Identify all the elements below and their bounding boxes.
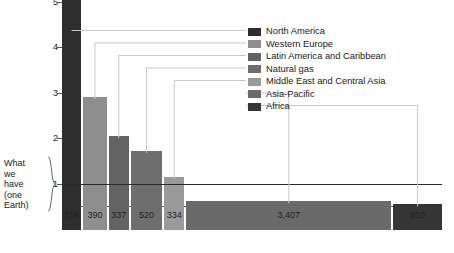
bar-north-america[interactable] [62,0,81,230]
annotation-line-2: we [4,169,50,180]
legend-swatch-icon [248,40,261,48]
y-tick-label-4: 4 [53,42,58,52]
legend-item-africa[interactable]: Africa [248,101,386,113]
legend-label: Natural gas [266,64,314,75]
reference-line-annotation: What we have (one Earth) [4,158,50,211]
y-tick-label-2: 2 [53,133,58,143]
x-label-337: 337 [111,210,126,220]
annotation-line-5: Earth) [4,200,50,211]
legend-item-asia-pacific[interactable]: Asia-Pacific [248,89,386,101]
x-label-520: 520 [139,210,154,220]
chart-legend: North AmericaWestern EuropeLatin America… [248,26,386,113]
legend-label: Middle East and Central Asia [266,76,385,87]
legend-item-north-america[interactable]: North America [248,26,386,38]
legend-swatch-icon [248,78,261,86]
y-tick-label-1: 1 [53,179,58,189]
legend-swatch-icon [248,53,261,61]
legend-label: North America [266,26,325,37]
legend-label: Latin America and Caribbean [266,51,386,62]
x-label-390: 390 [87,210,102,220]
legend-item-natural-gas[interactable]: Natural gas [248,64,386,76]
one-earth-reference-line [62,184,442,185]
annotation-line-4: (one [4,190,50,201]
legend-item-latin-america-and-caribbean[interactable]: Latin America and Caribbean [248,51,386,63]
annotation-line-1: What [4,158,50,169]
annotation-line-3: have [4,179,50,190]
legend-swatch-icon [248,103,261,111]
y-tick-label-3: 3 [53,88,58,98]
legend-label: Western Europe [266,39,333,50]
legend-label: Asia-Pacific [266,89,315,100]
x-label-319: 319 [64,210,79,220]
x-label-810: 810 [410,210,425,220]
x-label-3407: 3,407 [278,210,301,220]
legend-swatch-icon [248,65,261,73]
legend-item-western-europe[interactable]: Western Europe [248,39,386,51]
chart-canvas: Number of Earths (regenerable resources)… [0,0,454,253]
legend-swatch-icon [248,28,261,36]
legend-swatch-icon [248,90,261,98]
legend-item-middle-east-and-central-asia[interactable]: Middle East and Central Asia [248,76,386,88]
x-label-334: 334 [167,210,182,220]
legend-label: Africa [266,101,290,112]
y-tick-label-5: 5 [53,0,58,7]
